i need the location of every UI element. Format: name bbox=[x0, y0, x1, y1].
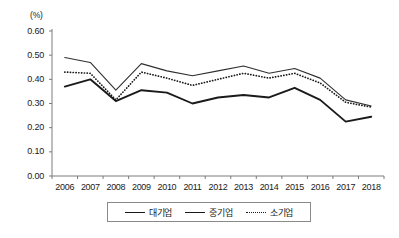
legend-line-swatch-icon bbox=[125, 208, 145, 216]
legend-item-label: 소기업 bbox=[270, 206, 293, 219]
line-chart-figure: (%) 0.000.100.200.300.400.500.60 2006200… bbox=[0, 0, 399, 238]
series-line-2 bbox=[65, 72, 371, 107]
legend-item-1: 중기업 bbox=[185, 206, 232, 219]
series-line-1 bbox=[65, 58, 371, 106]
y-axis-tick-label: 0.20 bbox=[14, 123, 44, 132]
legend-line-swatch-icon bbox=[246, 208, 266, 216]
y-axis-tick-label: 0.50 bbox=[14, 51, 44, 60]
chart-legend: 대기업중기업소기업 bbox=[107, 202, 311, 222]
legend-line-swatch-icon bbox=[185, 208, 205, 216]
legend-item-label: 대기업 bbox=[149, 206, 172, 219]
series-line-0 bbox=[65, 79, 371, 121]
y-axis-tick-label: 0.00 bbox=[14, 172, 44, 181]
legend-item-2: 소기업 bbox=[246, 206, 293, 219]
y-axis-tick-label: 0.10 bbox=[14, 147, 44, 156]
legend-item-label: 중기업 bbox=[209, 206, 232, 219]
y-axis-tick-label: 0.60 bbox=[14, 27, 44, 36]
y-axis-tick-label: 0.30 bbox=[14, 99, 44, 108]
x-axis-tick-label: 2018 bbox=[356, 183, 386, 192]
y-axis-tick-label: 0.40 bbox=[14, 75, 44, 84]
legend-item-0: 대기업 bbox=[125, 206, 172, 219]
